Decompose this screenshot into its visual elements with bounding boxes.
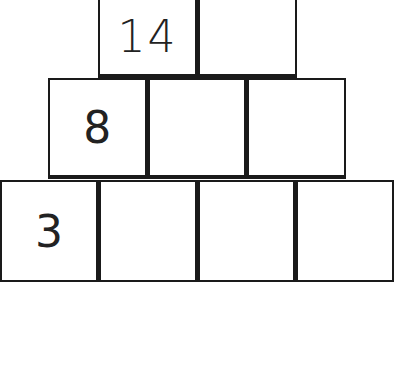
pyramid-cell[interactable]	[195, 0, 295, 74]
pyramid-row-bottom: 3	[0, 180, 394, 282]
pyramid-cell[interactable]: 14	[100, 0, 195, 74]
pyramid-cell[interactable]	[293, 182, 392, 280]
pyramid-cell[interactable]	[96, 182, 195, 280]
pyramid-row-top: 14	[98, 0, 297, 78]
pyramid-cell[interactable]	[145, 80, 245, 175]
pyramid-row-middle: 8	[48, 78, 346, 179]
pyramid-cell[interactable]	[244, 80, 344, 175]
pyramid-cell[interactable]: 3	[2, 182, 96, 280]
pyramid-cell[interactable]	[195, 182, 294, 280]
pyramid-cell[interactable]: 8	[50, 80, 145, 175]
